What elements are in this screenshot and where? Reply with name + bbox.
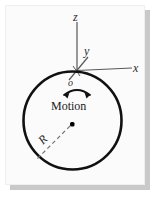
- sphere-center-dot: [70, 122, 75, 127]
- radius-label: R: [35, 132, 51, 148]
- z-axis-label: z: [72, 10, 78, 24]
- figure-container: z y x o Motion R: [0, 0, 157, 198]
- x-axis-label: x: [132, 61, 139, 75]
- motion-label: Motion: [51, 99, 86, 113]
- diagram-canvas: z y x o Motion R: [0, 0, 157, 198]
- x-axis-line: [77, 68, 132, 71]
- y-axis-label: y: [83, 44, 90, 58]
- origin-label: o: [68, 77, 73, 88]
